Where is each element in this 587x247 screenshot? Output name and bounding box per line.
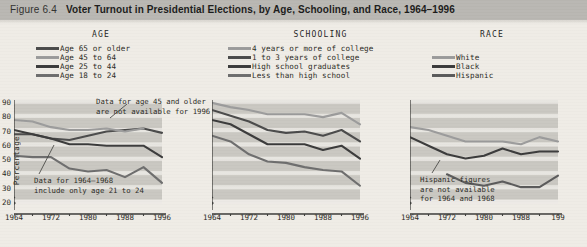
legend-swatch (36, 65, 59, 68)
legend-item[interactable]: Less than high school (228, 71, 428, 80)
x-axis-tick-label: 1980 (475, 213, 493, 222)
legend-swatch (36, 74, 59, 77)
legend-swatch (36, 56, 59, 59)
y-axis-tick-label: 90 (2, 98, 11, 107)
chart-panel-race: 1964197219801988199Hispanic figures are … (410, 98, 582, 216)
legend-item-label: Age 18 to 24 (60, 71, 116, 80)
plot-area-schooling: 19641972198019881996 (212, 98, 384, 216)
x-axis-tick-label: 1972 (240, 213, 258, 222)
legend-item-label: Hispanic (456, 71, 493, 80)
y-axis-label: Percentage (12, 136, 21, 185)
x-axis-tick-label: 1988 (116, 213, 134, 222)
legend-item-label: 4 years or more of college (252, 44, 373, 53)
legend-swatch (432, 65, 455, 68)
legend-age-items: Age 65 or older Age 45 to 64 Age 25 to 4… (36, 44, 196, 80)
annotation-age-45-older: Data for age 45 and older are not availa… (96, 97, 210, 116)
legend-item[interactable]: 1 to 3 years of college (228, 53, 428, 62)
legend-swatch (228, 65, 251, 68)
chart-panel-age: Percentage 20304050607080901964197219801… (14, 98, 186, 216)
legend-item-label: White (456, 53, 479, 62)
x-axis-tick-label: 1964 (203, 213, 221, 222)
legend-age: AGE Age 65 or older Age 45 to 64 Age 25 … (36, 30, 196, 80)
figure-number: Figure 6.4 (10, 4, 57, 15)
legend-swatch (432, 74, 455, 77)
legend-swatch (228, 56, 251, 59)
legend-item[interactable]: Black (432, 62, 582, 71)
legend-swatch (432, 56, 455, 59)
y-axis-tick-label: 30 (2, 183, 11, 192)
y-axis-tick-label: 40 (2, 169, 11, 178)
legend-item-label: Age 45 to 64 (60, 53, 116, 62)
legend-item[interactable]: Hispanic (432, 71, 582, 80)
x-axis-tick-label: 1996 (153, 213, 171, 222)
plot-area-age: Percentage 20304050607080901964197219801… (14, 98, 186, 216)
legend-item[interactable]: Age 45 to 64 (36, 53, 196, 62)
annotation-hispanic-unavailable: Hispanic figures are not available for 1… (420, 175, 495, 204)
legend-item-label: Black (456, 62, 479, 71)
y-axis-tick-label: 80 (2, 112, 11, 121)
legend-swatch (228, 47, 251, 50)
legend-swatch (228, 74, 251, 77)
figure-title: Voter Turnout in Presidential Elections,… (66, 4, 455, 15)
legend-race: RACE White Black Hispanic (432, 30, 582, 80)
legend-item[interactable]: Age 18 to 24 (36, 71, 196, 80)
legend-item-label: Age 25 to 44 (60, 62, 116, 71)
legend-item[interactable]: Age 25 to 44 (36, 62, 196, 71)
x-axis-tick-label: 199 (551, 213, 565, 222)
y-axis-tick-label: 50 (2, 155, 11, 164)
x-axis-tick-label: 1964 (5, 213, 23, 222)
x-axis-tick-label: 1964 (401, 213, 419, 222)
legend-item[interactable]: 4 years or more of college (228, 44, 428, 53)
legend-item-label: Age 65 or older (60, 44, 130, 53)
x-axis-tick-label: 1980 (277, 213, 295, 222)
y-axis-tick-label: 60 (2, 140, 11, 149)
y-axis-tick-label: 70 (2, 126, 11, 135)
x-axis-tick-label: 1972 (438, 213, 456, 222)
x-axis-tick-label: 1996 (351, 213, 369, 222)
legend-item-label: 1 to 3 years of college (252, 53, 359, 62)
figure-header-bar: Figure 6.4 Voter Turnout in Presidential… (0, 0, 587, 20)
legend-schooling-items: 4 years or more of college 1 to 3 years … (228, 44, 428, 80)
chart-panel-schooling: 19641972198019881996 (212, 98, 384, 216)
legend-item[interactable]: High school graduates (228, 62, 428, 71)
legend-race-title: RACE (432, 30, 552, 39)
x-axis-tick-label: 1972 (42, 213, 60, 222)
legend-item-label: High school graduates (252, 62, 350, 71)
legend-race-items: White Black Hispanic (432, 53, 582, 80)
chart-svg-schooling (212, 98, 384, 216)
legend-schooling-title: SCHOOLING (228, 30, 413, 39)
plot-area-race: 1964197219801988199Hispanic figures are … (410, 98, 582, 216)
legend-item[interactable]: Age 65 or older (36, 44, 196, 53)
x-axis-tick-label: 1988 (512, 213, 530, 222)
legend-item[interactable]: White (432, 53, 582, 62)
legend-swatch (36, 47, 59, 50)
legend-schooling: SCHOOLING 4 years or more of college 1 t… (228, 30, 428, 80)
x-axis-tick-label: 1988 (314, 213, 332, 222)
annotation-age-1964-1968: Data for 1964–1968 include only age 21 t… (34, 176, 144, 195)
x-axis-tick-label: 1980 (79, 213, 97, 222)
y-axis-tick-label: 20 (2, 198, 11, 207)
legend-age-title: AGE (36, 30, 166, 39)
legend-item-label: Less than high school (252, 71, 350, 80)
